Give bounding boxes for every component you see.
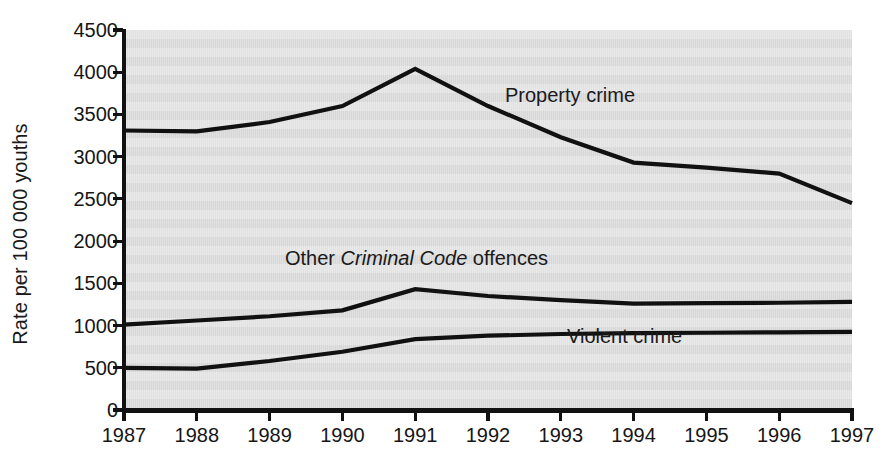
x-tick-label-1990: 1990 (320, 424, 365, 447)
other-label-italic: Criminal Code (341, 247, 468, 269)
other-label-suffix: offences (467, 247, 548, 269)
other-label-prefix: Other (285, 247, 341, 269)
x-tick-label-1995: 1995 (684, 424, 729, 447)
series-label-other-criminal-code-offences: Other Criminal Code offences (285, 248, 548, 268)
x-tick-label-1989: 1989 (247, 424, 292, 447)
series-line-other-criminal-code-offences (124, 289, 852, 324)
x-tick-label-1991: 1991 (393, 424, 438, 447)
series-line-violent-crime (124, 332, 852, 369)
series-label-property-crime: Property crime (505, 85, 635, 105)
x-tick-label-1987: 1987 (102, 424, 147, 447)
series-line-property-crime (124, 69, 852, 203)
x-tick-label-1992: 1992 (466, 424, 511, 447)
x-tick-label-1996: 1996 (757, 424, 802, 447)
youth-crime-rate-line-chart: Rate per 100 000 youths 4500400035003000… (0, 0, 895, 468)
plot-area: Property crime Other Criminal Code offen… (124, 30, 852, 410)
x-tick-label-1993: 1993 (539, 424, 584, 447)
series-lines (124, 30, 852, 410)
x-tick-label-1997: 1997 (830, 424, 875, 447)
series-label-violent-crime: Violent crime (567, 326, 682, 346)
x-tick-label-1988: 1988 (175, 424, 220, 447)
x-tick-label-1994: 1994 (611, 424, 656, 447)
